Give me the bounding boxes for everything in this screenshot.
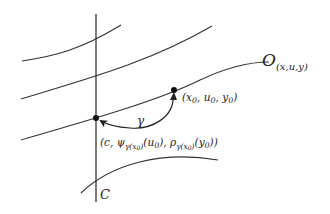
pc-sub2-text: γ(x: [176, 142, 188, 151]
orbit-subscript: (x,u,y): [276, 61, 308, 72]
x0-open: (x: [182, 91, 192, 103]
pc-sub1-text: γ(x: [125, 142, 137, 151]
point-x0-label: (x0, u0, y0): [182, 92, 237, 105]
pc-sub1: γ(x0): [125, 142, 143, 151]
point-c-label: (c, ψγ(x0)(u0), ργ(x0)(y0)): [100, 137, 218, 151]
curve-1: [22, 25, 121, 61]
curve-c-text: C: [100, 187, 110, 202]
gamma-arrow-start-head: [170, 92, 177, 100]
curve-c-label: C: [100, 188, 110, 201]
point-x0-dot: [171, 87, 177, 93]
pc-mid: ), ρ: [159, 136, 176, 148]
gamma-text: γ: [137, 114, 144, 128]
orbit-label: O(x,u,y): [262, 52, 308, 72]
pc-sub2: γ(x0): [176, 142, 194, 151]
y0-text: , y: [216, 91, 229, 103]
pc-close: )): [210, 136, 218, 148]
x0-close: ): [233, 91, 237, 103]
point-c-dot: [93, 115, 99, 121]
orbit-symbol: O: [262, 50, 276, 70]
diagram-canvas: [0, 0, 330, 214]
pc-arg1: (u: [143, 136, 154, 148]
pc-arg2: (y: [195, 136, 205, 148]
gamma-label: γ: [137, 115, 144, 127]
pc-open: (c, ψ: [100, 136, 125, 148]
u0-text: , u: [197, 91, 210, 103]
